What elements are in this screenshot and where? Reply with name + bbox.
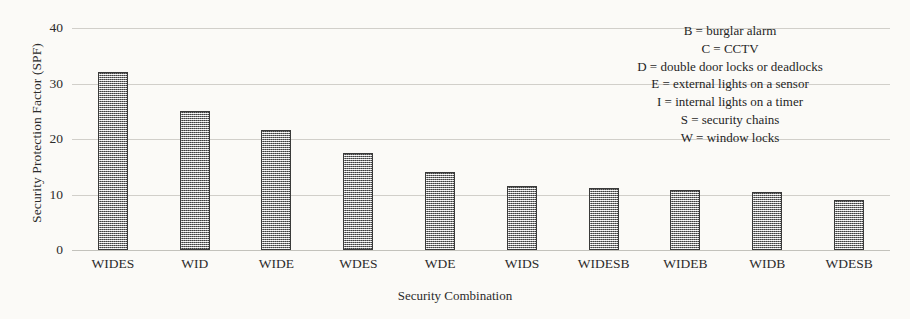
bar [670, 190, 700, 250]
gridline [72, 250, 890, 251]
y-tick-label: 40 [50, 20, 64, 36]
x-tick-label: WIDESB [578, 256, 630, 272]
y-axis-title: Security Protection Factor (SPF) [29, 18, 45, 248]
x-axis-title: Security Combination [0, 288, 910, 304]
bar [425, 172, 455, 250]
legend-line: E = external lights on a sensor [575, 75, 885, 93]
bar [834, 200, 864, 250]
x-tick-label: WIDES [92, 256, 135, 272]
x-tick-label: WIDS [505, 256, 540, 272]
bar-group: WDES [317, 28, 399, 250]
bar [507, 186, 537, 250]
bar-group: WID [154, 28, 236, 250]
chart-legend: B = burglar alarmC = CCTVD = double door… [575, 22, 885, 147]
legend-line: I = internal lights on a timer [575, 93, 885, 111]
bar-group: WIDES [72, 28, 154, 250]
bar [98, 72, 128, 250]
y-tick-label: 30 [50, 76, 64, 92]
x-tick-label: WDES [339, 256, 377, 272]
x-tick-label: WIDB [749, 256, 785, 272]
x-tick-label: WIDEB [663, 256, 707, 272]
bar-group: WDE [399, 28, 481, 250]
x-tick-label: WDE [425, 256, 456, 272]
bar [261, 130, 291, 250]
chart-figure: Security Protection Factor (SPF) 0102030… [0, 0, 910, 319]
legend-line: W = window locks [575, 129, 885, 147]
x-tick-label: WIDE [259, 256, 294, 272]
x-tick-label: WID [181, 256, 208, 272]
y-tick-label: 0 [56, 242, 63, 258]
bar [589, 188, 619, 250]
bar [180, 111, 210, 250]
bar-group: WIDS [481, 28, 563, 250]
legend-line: C = CCTV [575, 40, 885, 58]
x-tick-label: WDESB [825, 256, 872, 272]
legend-line: D = double door locks or deadlocks [575, 58, 885, 76]
legend-line: S = security chains [575, 111, 885, 129]
y-tick-label: 10 [50, 187, 64, 203]
bar-group: WIDE [236, 28, 318, 250]
bar [343, 153, 373, 250]
bar [752, 192, 782, 250]
y-tick-label: 20 [50, 131, 64, 147]
legend-line: B = burglar alarm [575, 22, 885, 40]
